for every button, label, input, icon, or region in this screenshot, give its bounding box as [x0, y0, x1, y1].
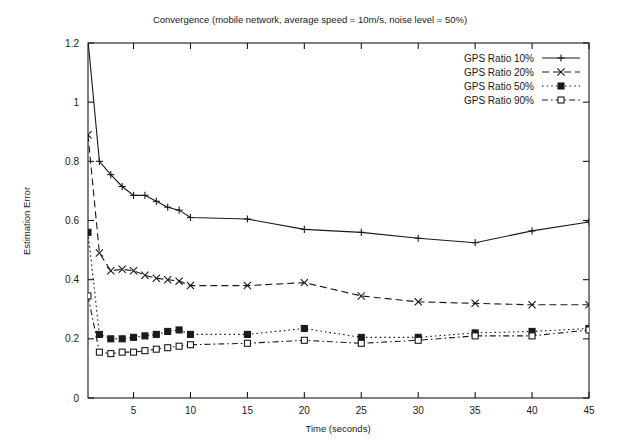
series-line [88, 296, 589, 354]
data-point-marker [141, 192, 148, 199]
x-tick-label: 35 [470, 405, 482, 416]
legend-label-3: GPS Ratio 50% [464, 81, 534, 92]
data-point-marker [301, 337, 307, 343]
data-point-marker [142, 333, 148, 339]
x-tick-label: 25 [356, 405, 368, 416]
data-point-marker [358, 334, 364, 340]
data-point-marker [558, 83, 564, 89]
data-point-marker [585, 218, 592, 225]
x-tick-label: 30 [413, 405, 425, 416]
convergence-line-chart: Convergence (mobile network, average spe… [0, 0, 625, 440]
y-tick-label: 0.8 [65, 156, 79, 167]
data-point-marker [153, 331, 159, 337]
legend-label-2: GPS Ratio 20% [464, 67, 534, 78]
chart-page: Convergence (mobile network, average spe… [0, 0, 625, 440]
y-tick-label: 1.2 [65, 38, 79, 49]
data-point-marker [415, 235, 422, 242]
y-tick-label: 0.2 [65, 333, 79, 344]
data-point-marker [153, 346, 159, 352]
data-point-marker [175, 207, 182, 214]
chart-legend: GPS Ratio 10%GPS Ratio 20%GPS Ratio 50%G… [464, 53, 580, 106]
chart-title: Convergence (mobile network, average spe… [153, 14, 467, 25]
data-point-marker [528, 227, 535, 234]
series-line [88, 135, 589, 305]
data-point-marker [415, 337, 421, 343]
data-point-marker [176, 343, 182, 349]
data-point-marker [244, 340, 250, 346]
y-tick-label: 0.6 [65, 215, 79, 226]
series-3 [85, 229, 592, 342]
x-tick-label: 15 [242, 405, 254, 416]
data-point-marker [358, 340, 364, 346]
data-point-marker [175, 278, 182, 285]
series-2 [84, 131, 592, 308]
data-point-marker [187, 331, 193, 337]
data-point-marker [301, 325, 307, 331]
y-tick-label: 1 [73, 97, 79, 108]
x-tick-label: 45 [583, 405, 595, 416]
data-point-marker [176, 327, 182, 333]
data-point-marker [165, 345, 171, 351]
data-point-marker [142, 348, 148, 354]
data-point-marker [558, 97, 564, 103]
data-point-marker [85, 229, 91, 235]
legend-label-4: GPS Ratio 90% [464, 95, 534, 106]
data-point-marker [131, 334, 137, 340]
data-point-marker [131, 349, 137, 355]
data-point-marker [557, 54, 564, 61]
x-tick-label: 40 [527, 405, 539, 416]
legend-label-1: GPS Ratio 10% [464, 53, 534, 64]
x-tick-label: 10 [185, 405, 197, 416]
y-tick-label: 0 [73, 393, 79, 404]
data-point-marker [108, 336, 114, 342]
data-point-marker [301, 226, 308, 233]
y-tick-label: 0.4 [65, 274, 79, 285]
data-point-marker [85, 293, 91, 299]
data-point-marker [119, 349, 125, 355]
y-axis-label: Estimation Error [21, 187, 32, 255]
data-point-marker [165, 328, 171, 334]
data-point-marker [96, 331, 102, 337]
data-point-marker [358, 229, 365, 236]
data-point-marker [153, 198, 160, 205]
data-point-marker [187, 342, 193, 348]
data-point-marker [108, 351, 114, 357]
data-point-marker [244, 331, 250, 337]
data-point-marker [96, 349, 102, 355]
data-point-marker [107, 267, 114, 274]
data-point-marker [586, 327, 592, 333]
data-point-marker [164, 204, 171, 211]
data-point-marker [529, 333, 535, 339]
data-point-marker [119, 336, 125, 342]
series-line [88, 232, 589, 338]
x-tick-label: 20 [299, 405, 311, 416]
data-point-marker [141, 272, 148, 279]
x-axis-label: Time (seconds) [305, 423, 370, 434]
data-point-marker [244, 215, 251, 222]
data-point-marker [472, 239, 479, 246]
data-point-marker [187, 214, 194, 221]
data-point-marker [472, 333, 478, 339]
x-tick-label: 5 [131, 405, 137, 416]
series-4 [85, 293, 592, 357]
